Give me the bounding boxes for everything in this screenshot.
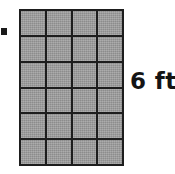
tile [47,89,71,113]
bullet-marker [1,28,7,35]
tile [47,114,71,138]
tile [21,37,45,61]
tile [47,37,71,61]
tile [21,114,45,138]
tile [73,140,97,164]
tile [73,37,97,61]
tile [98,11,122,35]
tile [98,140,122,164]
tile [47,140,71,164]
tile [21,89,45,113]
tile [21,11,45,35]
tile [73,11,97,35]
tile [73,63,97,87]
tiled-rectangle [19,9,124,166]
tile [98,37,122,61]
figure-canvas: 6 ft [0,0,175,174]
tile [21,63,45,87]
tile [47,63,71,87]
tile [73,114,97,138]
tile [98,89,122,113]
tile [98,114,122,138]
tile [21,140,45,164]
height-dimension-label: 6 ft [130,68,175,94]
tile [98,63,122,87]
tile [73,89,97,113]
tile [47,11,71,35]
